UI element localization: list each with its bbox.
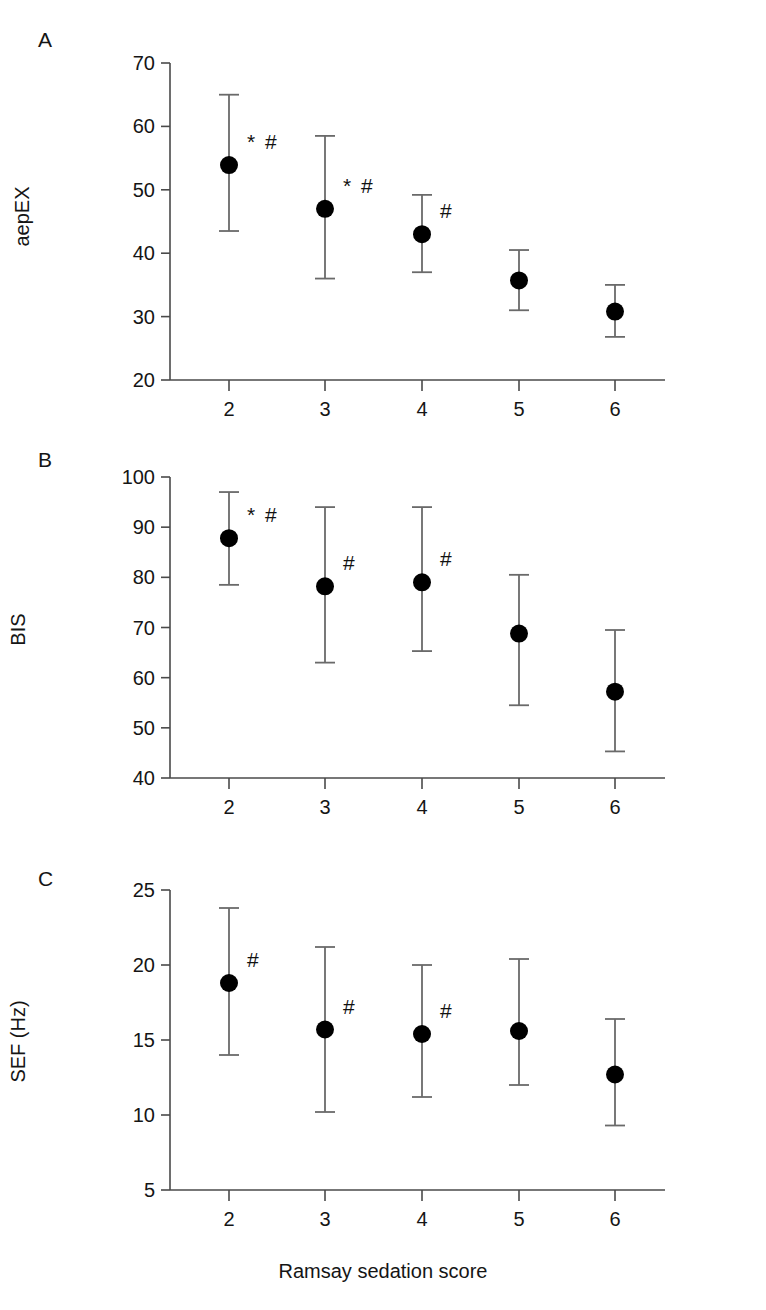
x-tick-label: 5 <box>513 1208 524 1230</box>
x-tick-label: 4 <box>416 796 427 818</box>
data-point-group <box>412 195 432 272</box>
significance-annotation: # <box>247 948 261 971</box>
data-point-marker <box>316 200 334 218</box>
y-tick-label: 50 <box>133 717 155 739</box>
data-point-group <box>219 492 239 585</box>
y-tick-label: 10 <box>133 1104 155 1126</box>
y-tick-label: 20 <box>133 369 155 391</box>
significance-annotation: # <box>440 547 454 570</box>
x-tick-label: 2 <box>223 398 234 420</box>
data-point-group <box>315 507 335 663</box>
data-point-marker <box>316 1021 334 1039</box>
x-tick-label: 5 <box>513 796 524 818</box>
x-tick-label: 2 <box>223 1208 234 1230</box>
data-point-marker <box>413 1025 431 1043</box>
y-tick-label: 70 <box>133 617 155 639</box>
y-tick-label: 40 <box>133 242 155 264</box>
x-axis-title: Ramsay sedation score <box>0 1260 766 1283</box>
y-tick-label: 90 <box>133 516 155 538</box>
data-point-marker <box>316 577 334 595</box>
x-tick-label: 6 <box>609 796 620 818</box>
data-point-group <box>315 136 335 279</box>
panel-b: B BIS 40506070809010023456* ### <box>0 420 766 860</box>
data-point-marker <box>220 974 238 992</box>
significance-annotation: # <box>343 995 357 1018</box>
y-tick-label: 60 <box>133 115 155 137</box>
panel-b-plot: 40506070809010023456* ### <box>0 420 766 860</box>
data-point-marker <box>413 573 431 591</box>
y-tick-label: 30 <box>133 306 155 328</box>
data-point-group <box>412 965 432 1097</box>
data-point-marker <box>606 303 624 321</box>
x-tick-label: 6 <box>609 1208 620 1230</box>
data-point-group <box>219 908 239 1055</box>
significance-annotation: # <box>440 199 454 222</box>
data-point-marker <box>510 271 528 289</box>
data-point-marker <box>606 1066 624 1084</box>
panel-c: C SEF (Hz) 51015202523456### Ramsay seda… <box>0 845 766 1310</box>
y-tick-label: 40 <box>133 767 155 789</box>
panel-a: A aepEX 20304050607023456* #* ## <box>0 0 766 430</box>
x-tick-label: 5 <box>513 398 524 420</box>
significance-annotation: * # <box>343 174 375 197</box>
x-tick-label: 3 <box>319 398 330 420</box>
data-point-group <box>605 285 625 337</box>
data-point-marker <box>510 1022 528 1040</box>
data-point-marker <box>413 225 431 243</box>
x-tick-label: 6 <box>609 398 620 420</box>
y-tick-label: 80 <box>133 566 155 588</box>
y-tick-label: 50 <box>133 179 155 201</box>
y-tick-label: 25 <box>133 879 155 901</box>
data-point-group <box>605 1019 625 1126</box>
x-tick-label: 3 <box>319 796 330 818</box>
data-point-group <box>509 959 529 1085</box>
data-point-group <box>412 507 432 651</box>
x-tick-label: 3 <box>319 1208 330 1230</box>
figure-panel-group: A aepEX 20304050607023456* #* ## B BIS 4… <box>0 0 766 1310</box>
x-tick-label: 4 <box>416 1208 427 1230</box>
y-tick-label: 15 <box>133 1029 155 1051</box>
data-point-marker <box>510 625 528 643</box>
data-point-marker <box>220 156 238 174</box>
y-tick-label: 5 <box>144 1179 155 1201</box>
y-tick-label: 100 <box>122 466 155 488</box>
significance-annotation: # <box>343 551 357 574</box>
y-tick-label: 20 <box>133 954 155 976</box>
data-point-group <box>605 630 625 751</box>
y-tick-label: 70 <box>133 52 155 74</box>
significance-annotation: * # <box>247 130 279 153</box>
x-tick-label: 2 <box>223 796 234 818</box>
significance-annotation: * # <box>247 503 279 526</box>
significance-annotation: # <box>440 999 454 1022</box>
data-point-marker <box>220 529 238 547</box>
panel-a-plot: 20304050607023456* #* ## <box>0 0 766 430</box>
data-point-group <box>219 95 239 231</box>
data-point-group <box>509 250 529 310</box>
panel-c-plot: 51015202523456### <box>0 845 766 1310</box>
x-tick-label: 4 <box>416 398 427 420</box>
data-point-group <box>315 947 335 1112</box>
y-tick-label: 60 <box>133 667 155 689</box>
data-point-group <box>509 575 529 705</box>
data-point-marker <box>606 683 624 701</box>
